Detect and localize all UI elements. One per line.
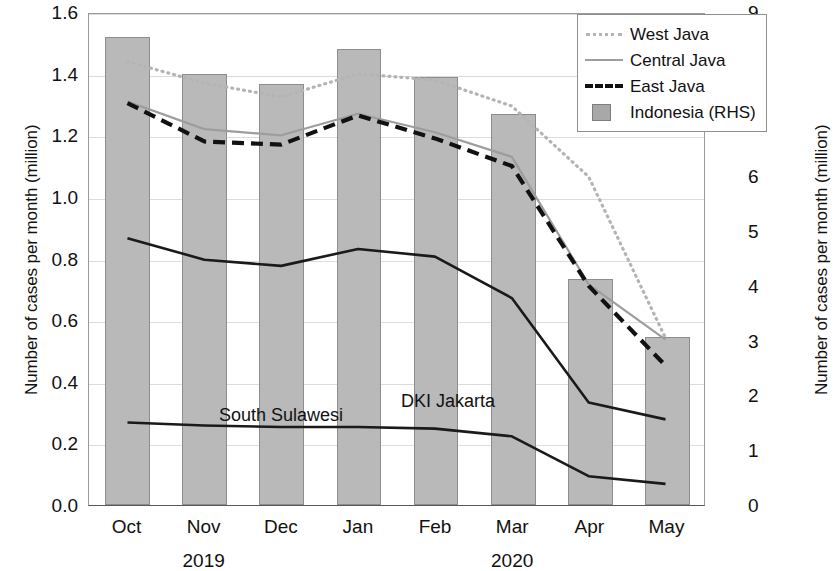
dotted-line-icon bbox=[584, 26, 624, 42]
x-axis-tick-feb: Feb bbox=[395, 517, 475, 536]
dashed-line-icon bbox=[584, 78, 624, 94]
legend-label: East Java bbox=[630, 78, 705, 95]
x-axis-tick-may: May bbox=[626, 517, 706, 536]
y-axis-right-tick: 4 bbox=[748, 277, 800, 296]
x-axis-tick-apr: Apr bbox=[549, 517, 629, 536]
y-axis-left-tick: 0.6 bbox=[26, 311, 78, 330]
legend-item-central-java: Central Java bbox=[584, 47, 761, 73]
line-south-sulawesi bbox=[127, 422, 665, 483]
legend-label: Central Java bbox=[630, 52, 725, 69]
line-east-java bbox=[127, 103, 665, 366]
y-axis-right-tick: 1 bbox=[748, 441, 800, 460]
annotation-dki-jakarta: DKI Jakarta bbox=[401, 391, 495, 412]
y-axis-left-tick: 1.6 bbox=[26, 3, 78, 22]
y-axis-right-title: Number of cases per month (million) bbox=[812, 135, 832, 395]
y-axis-left-tick: 0.2 bbox=[26, 434, 78, 453]
x-axis-year-2019: 2019 bbox=[164, 551, 244, 570]
x-axis-tick-nov: Nov bbox=[164, 517, 244, 536]
x-axis-tick-jan: Jan bbox=[318, 517, 398, 536]
y-axis-right-tick: 5 bbox=[748, 222, 800, 241]
y-axis-left-tick: 0.0 bbox=[26, 496, 78, 515]
x-axis-tick-dec: Dec bbox=[241, 517, 321, 536]
legend-item-east-java: East Java bbox=[584, 73, 761, 99]
legend-item-west-java: West Java bbox=[584, 21, 761, 47]
annotation-south-sulawesi: South Sulawesi bbox=[219, 405, 343, 426]
y-axis-left-tick: 1.0 bbox=[26, 188, 78, 207]
chart-root: Number of cases per month (million) Numb… bbox=[0, 0, 838, 571]
x-axis-tick-oct: Oct bbox=[87, 517, 167, 536]
legend-label: Indonesia (RHS) bbox=[630, 104, 756, 121]
y-axis-left-tick: 0.4 bbox=[26, 373, 78, 392]
y-axis-right-tick: 6 bbox=[748, 167, 800, 186]
y-axis-right-tick: 2 bbox=[748, 386, 800, 405]
y-axis-left-tick: 0.8 bbox=[26, 250, 78, 269]
y-axis-right-tick: 0 bbox=[748, 496, 800, 515]
y-axis-left-tick: 1.2 bbox=[26, 126, 78, 145]
line-dki-jakarta bbox=[127, 238, 665, 419]
chart-legend: West Java Central Java East Java Indones… bbox=[577, 14, 767, 132]
line-central-java bbox=[127, 102, 665, 340]
solid-line-icon bbox=[584, 52, 624, 68]
legend-item-indonesia: Indonesia (RHS) bbox=[584, 99, 761, 125]
legend-label: West Java bbox=[630, 26, 709, 43]
y-axis-right-tick: 3 bbox=[748, 332, 800, 351]
x-axis-year-2020: 2020 bbox=[472, 551, 552, 570]
x-axis-tick-mar: Mar bbox=[472, 517, 552, 536]
y-axis-left-tick: 1.4 bbox=[26, 65, 78, 84]
filled-square-icon bbox=[584, 104, 624, 120]
